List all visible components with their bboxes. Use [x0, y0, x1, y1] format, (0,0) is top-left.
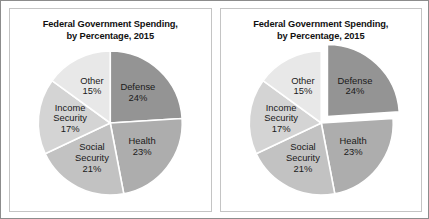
pie-slice-defense[interactable]: Defense24% [110, 51, 182, 123]
chart-title-right: Federal Government Spending, by Percenta… [221, 18, 422, 42]
pie-slice-label: Other15% [80, 75, 103, 97]
chart-panel-right: Federal Government Spending, by Percenta… [220, 8, 423, 212]
pie-svg-right: Defense24%Health23%SocialSecurity21%Inco… [221, 43, 422, 203]
chart-panel-row: Federal Government Spending, by Percenta… [1, 1, 429, 219]
figure-frame: Federal Government Spending, by Percenta… [0, 0, 429, 219]
pie-slice-label: Other15% [291, 75, 314, 97]
pie-chart-right: Defense24%Health23%SocialSecurity21%Inco… [221, 43, 422, 203]
chart-panel-left: Federal Government Spending, by Percenta… [9, 8, 212, 212]
pie-chart-left: Defense24%Health23%SocialSecurity21%Inco… [10, 43, 211, 203]
pie-slice-defense[interactable]: Defense24% [327, 44, 399, 116]
chart-title-left: Federal Government Spending, by Percenta… [10, 18, 211, 42]
chart-title-line-2: by Percentage, 2015 [10, 30, 211, 42]
pie-svg-left: Defense24%Health23%SocialSecurity21%Inco… [10, 43, 211, 203]
chart-title-line-1: Federal Government Spending, [221, 18, 422, 30]
chart-title-line-1: Federal Government Spending, [10, 18, 211, 30]
chart-title-line-2: by Percentage, 2015 [221, 30, 422, 42]
